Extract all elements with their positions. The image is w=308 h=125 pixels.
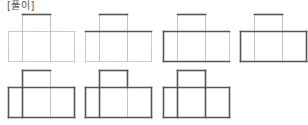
step-figure-4: [240, 14, 308, 64]
step-figure-2: [85, 14, 153, 64]
t-net-diagram: [8, 14, 76, 64]
t-net-diagram: [8, 70, 76, 120]
step-figure-3: [163, 14, 231, 64]
step-figure-6: [85, 70, 153, 120]
solution-heading: [풀이]: [7, 0, 35, 12]
step-figure-1: [8, 14, 76, 64]
t-net-diagram: [85, 14, 153, 64]
t-net-diagram: [85, 70, 153, 120]
t-net-diagram: [163, 70, 231, 120]
step-figure-5: [8, 70, 76, 120]
t-net-diagram: [163, 14, 231, 64]
step-figure-7: [163, 70, 231, 120]
t-net-diagram: [240, 14, 308, 64]
